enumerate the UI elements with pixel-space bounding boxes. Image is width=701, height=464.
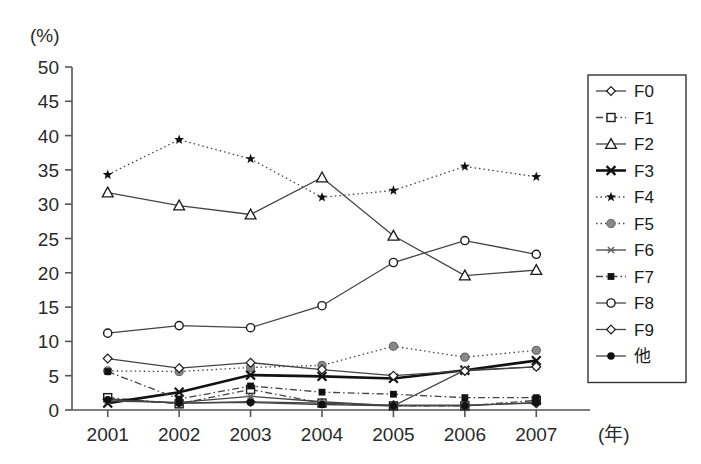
legend-marker-F1 (607, 114, 615, 122)
data-point-他-2001 (104, 396, 112, 404)
data-point-F4-2006 (460, 161, 470, 170)
data-point-F8-2006 (461, 236, 469, 244)
data-point-F2-2005 (388, 230, 399, 240)
y-axis-tick-label: 5 (48, 366, 59, 387)
y-axis-tick-label: 15 (38, 297, 59, 318)
data-point-F8-2002 (175, 322, 183, 330)
y-axis-tick-label: 45 (38, 91, 59, 112)
legend-label-F1: F1 (634, 109, 654, 128)
series-F4 (103, 135, 541, 202)
legend-label-F3: F3 (634, 162, 654, 181)
legend-label-F5: F5 (634, 215, 654, 234)
series-line-F4 (108, 140, 537, 198)
legend-marker-F7 (608, 273, 615, 280)
data-point-他-2007 (532, 399, 540, 407)
legend-marker-F8 (607, 299, 615, 307)
legend-marker-F5 (607, 219, 615, 227)
data-point-F4-2005 (388, 185, 398, 194)
series-line-F8 (108, 241, 537, 334)
legend-label-F9: F9 (634, 321, 654, 340)
data-point-F5-2005 (389, 342, 397, 350)
series-F8 (104, 236, 541, 337)
data-point-他-2004 (318, 401, 326, 409)
chart-container: (%)0510152025303540455020012002200320042… (0, 0, 701, 464)
y-axis-tick-label: 10 (38, 331, 59, 352)
data-point-F7-2006 (461, 394, 468, 401)
data-point-他-2003 (247, 399, 255, 407)
data-point-F8-2003 (246, 324, 254, 332)
y-axis-unit-label: (%) (30, 25, 60, 46)
x-axis-tick-label: 2005 (372, 424, 414, 445)
data-point-F7-2003 (247, 383, 254, 390)
data-point-F4-2007 (531, 172, 541, 181)
y-axis-tick-label: 25 (38, 229, 59, 250)
data-point-F7-2005 (390, 391, 397, 398)
line-chart: (%)0510152025303540455020012002200320042… (0, 0, 701, 464)
data-point-他-2005 (390, 402, 398, 410)
legend-label-F0: F0 (634, 82, 654, 101)
legend-marker-他 (607, 352, 615, 360)
x-axis-tick-label: 2006 (444, 424, 486, 445)
data-point-F7-2004 (319, 389, 326, 396)
data-point-F9-2001 (103, 354, 112, 363)
legend-label-F2: F2 (634, 135, 654, 154)
data-point-F4-2002 (174, 135, 184, 144)
x-axis-label: (年) (598, 424, 630, 445)
y-axis-tick-label: 35 (38, 160, 59, 181)
data-point-F5-2007 (532, 346, 540, 354)
x-axis-tick-label: 2002 (158, 424, 200, 445)
data-point-F4-2004 (317, 192, 327, 201)
x-axis-tick-label: 2004 (301, 424, 344, 445)
legend-label-F6: F6 (634, 241, 654, 260)
legend-label-F7: F7 (634, 268, 654, 287)
data-point-F4-2003 (246, 154, 256, 163)
data-point-F2-2004 (317, 172, 328, 182)
y-axis-tick-label: 20 (38, 263, 59, 284)
data-point-F8-2004 (318, 302, 326, 310)
series-F2 (102, 172, 541, 280)
y-axis-tick-label: 30 (38, 194, 59, 215)
data-point-F8-2005 (389, 258, 397, 266)
legend-label-F4: F4 (634, 188, 654, 207)
legend-label-F8: F8 (634, 294, 654, 313)
x-axis-tick-label: 2007 (515, 424, 557, 445)
x-axis-tick-label: 2003 (229, 424, 271, 445)
data-point-F5-2006 (461, 353, 469, 361)
data-point-F8-2001 (104, 329, 112, 337)
data-point-F2-2001 (102, 187, 113, 197)
data-point-F7-2001 (104, 368, 111, 375)
y-axis-tick-label: 50 (38, 57, 59, 78)
data-point-F8-2007 (532, 250, 540, 258)
data-point-他-2006 (461, 402, 469, 410)
y-axis-tick-label: 0 (48, 400, 59, 421)
legend-label-他: 他 (634, 347, 651, 366)
data-point-他-2002 (175, 399, 183, 407)
y-axis-tick-label: 40 (38, 126, 59, 147)
data-point-F4-2001 (103, 170, 113, 179)
x-axis-tick-label: 2001 (87, 424, 129, 445)
data-point-F2-2007 (531, 265, 542, 275)
